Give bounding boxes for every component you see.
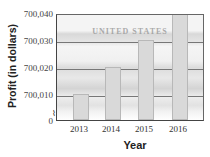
- x-axis-label: Year: [105, 139, 165, 151]
- plot-area: UNITED STATES: [56, 14, 204, 121]
- y-tick-700010: 700,010: [24, 90, 53, 100]
- x-tick-2016: 2016: [163, 124, 193, 134]
- bar-2013: [73, 94, 89, 120]
- y-axis-label: Profit (in dollars): [6, 16, 18, 116]
- bar-2014: [105, 67, 121, 120]
- y-tick-700040: 700,040: [24, 9, 53, 19]
- y-tick-700030: 700,030: [24, 36, 53, 46]
- bar-2015: [138, 40, 154, 120]
- y-tick-700020: 700,020: [24, 63, 53, 73]
- x-tick-2013: 2013: [64, 124, 94, 134]
- bar-2016: [172, 14, 188, 120]
- x-tick-2014: 2014: [96, 124, 126, 134]
- x-tick-2015: 2015: [129, 124, 159, 134]
